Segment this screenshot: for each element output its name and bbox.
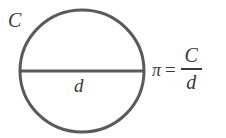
- fraction-denominator: d: [184, 72, 198, 93]
- fraction-bar: [181, 68, 202, 70]
- pi-symbol: π: [152, 59, 165, 79]
- diameter-label: d: [74, 76, 84, 95]
- circle-svg: [18, 6, 152, 138]
- circle-diagram: [18, 6, 152, 138]
- equals-sign: =: [165, 59, 181, 79]
- pi-equation: π = C d: [152, 38, 224, 100]
- fraction-numerator: C: [183, 45, 200, 66]
- circumference-label: C: [8, 10, 21, 30]
- figure-canvas: C d π = C d: [0, 0, 226, 138]
- fraction: C d: [181, 45, 202, 93]
